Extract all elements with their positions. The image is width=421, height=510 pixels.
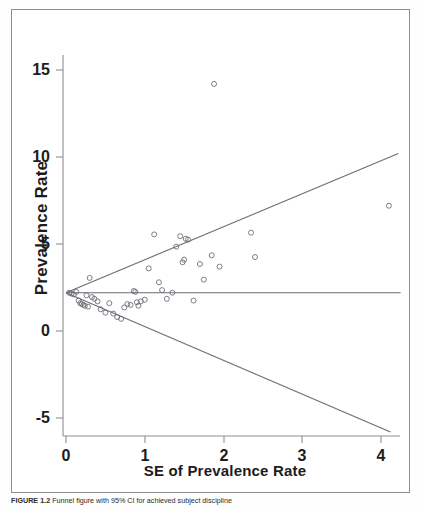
- x-tick-marks: [66, 436, 381, 443]
- data-point: [178, 234, 183, 239]
- data-point: [212, 81, 217, 86]
- data-point: [95, 299, 100, 304]
- x-tick-label-1: 1: [130, 447, 160, 465]
- axes-group: [56, 55, 400, 443]
- data-point: [133, 289, 138, 294]
- data-point: [128, 302, 133, 307]
- x-tick-label-2: 2: [209, 447, 239, 465]
- lower-95-ci: [66, 293, 390, 432]
- funnel-plot-canvas: [0, 0, 421, 510]
- caption-label: FIGURE 1.2: [11, 496, 50, 505]
- data-point: [86, 304, 91, 309]
- data-point: [249, 230, 254, 235]
- data-point: [156, 280, 161, 285]
- y-tick-label-10: 10: [14, 148, 50, 166]
- y-tick-label-minus-5: -5: [14, 409, 50, 427]
- data-point: [197, 262, 202, 267]
- data-point: [125, 302, 130, 307]
- data-point: [87, 275, 92, 280]
- data-point: [107, 301, 112, 306]
- y-tick-label-0: 0: [14, 322, 50, 340]
- data-point: [146, 266, 151, 271]
- data-point: [217, 264, 222, 269]
- data-point: [152, 232, 157, 237]
- y-tick-marks: [56, 70, 63, 418]
- upper-95-ci: [66, 154, 398, 293]
- figure-container: Prevalence Rate SE of Prevalence Rate 15…: [0, 0, 421, 510]
- data-point: [103, 310, 108, 315]
- data-point: [191, 298, 196, 303]
- data-point: [84, 293, 89, 298]
- x-tick-label-4: 4: [366, 447, 396, 465]
- data-series-group: [66, 81, 401, 432]
- data-point: [164, 296, 169, 301]
- x-tick-label-3: 3: [287, 447, 317, 465]
- data-point: [160, 288, 165, 293]
- x-tick-label-0: 0: [51, 447, 81, 465]
- y-tick-label-15: 15: [14, 61, 50, 79]
- figure-caption: FIGURE 1.2 Funnel figure with 95% CI for…: [11, 496, 411, 506]
- data-point: [386, 203, 391, 208]
- data-point: [253, 255, 258, 260]
- data-point: [209, 253, 214, 258]
- data-point: [201, 277, 206, 282]
- caption-text: Funnel figure with 95% CI for achieved s…: [52, 496, 232, 505]
- y-tick-label-5: 5: [14, 235, 50, 253]
